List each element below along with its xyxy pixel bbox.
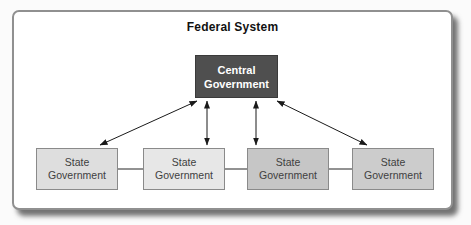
diagram-title: Federal System — [12, 20, 453, 34]
state-government-label: State Government — [356, 156, 430, 182]
state-government-box-4: State Government — [352, 148, 434, 190]
diagram-canvas: Federal System Central Government State … — [0, 0, 471, 225]
state-government-box-1: State Government — [36, 148, 118, 190]
state-government-box-2: State Government — [143, 148, 225, 190]
state-government-label: State Government — [251, 156, 325, 182]
state-government-label: State Government — [40, 156, 114, 182]
state-government-box-3: State Government — [247, 148, 329, 190]
central-government-label: Central Government — [201, 63, 273, 91]
central-government-box: Central Government — [195, 55, 278, 98]
state-government-label: State Government — [147, 156, 221, 182]
